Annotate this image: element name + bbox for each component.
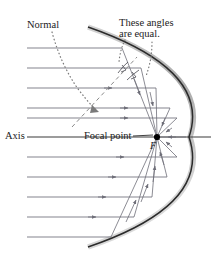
- parabolic-reflector-diagram: Normal These angles are equal. Axis Foca…: [0, 0, 211, 254]
- diagram-canvas: [0, 0, 211, 254]
- normal-dashed-line: [72, 57, 137, 127]
- axis-label: Axis: [5, 130, 25, 141]
- normal-label: Normal: [27, 19, 59, 30]
- angles-equal-label-line1: These angles: [119, 17, 174, 28]
- focus-symbol-label: F: [150, 141, 156, 152]
- focal-point-leader: [133, 135, 153, 136]
- focal-point-label: Focal point: [84, 130, 132, 141]
- normal-leader-dotted: [52, 32, 99, 113]
- angles-equal-label: These angles are equal.: [119, 17, 174, 40]
- angles-equal-label-line2: are equal.: [119, 28, 174, 39]
